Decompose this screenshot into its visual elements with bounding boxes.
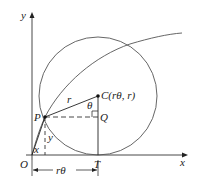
origin-label: O (20, 158, 28, 170)
x-segment-label: x (33, 143, 39, 155)
right-angle-marker (92, 111, 98, 117)
point-C (96, 94, 100, 98)
point-Q-label: Q (100, 111, 108, 123)
angle-theta-label: θ (87, 99, 93, 111)
arc-length-label: rθ (56, 164, 66, 176)
cycloid-diagram: y x O P C(rθ, r) Q T r θ x y rθ (0, 0, 199, 190)
point-P-label: P (33, 111, 41, 123)
dimension-arrow-left-icon (33, 168, 38, 172)
y-axis-label: y (20, 9, 26, 21)
x-axis-label: x (179, 156, 185, 168)
point-C-label: C(rθ, r) (101, 89, 135, 102)
point-P (43, 115, 47, 119)
radius-label: r (67, 93, 72, 105)
y-segment-label: y (47, 131, 53, 143)
point-T-label: T (94, 158, 101, 170)
y-axis-arrow-icon (30, 12, 35, 18)
